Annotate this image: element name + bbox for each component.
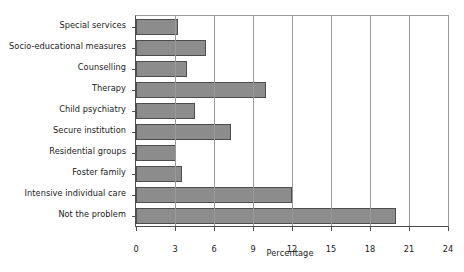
category-label: Foster family xyxy=(0,168,126,177)
gridline xyxy=(175,16,176,226)
gridline xyxy=(370,16,371,226)
x-axis-tick xyxy=(292,227,293,231)
category-label: Child psychiatry xyxy=(0,105,126,114)
gridline xyxy=(253,16,254,226)
gridline xyxy=(409,16,410,226)
bar xyxy=(136,40,206,56)
category-label: Socio-educational measures xyxy=(0,42,126,51)
category-label: Therapy xyxy=(0,84,126,93)
plot-area: 03691215182124 xyxy=(135,15,449,227)
gridline xyxy=(292,16,293,226)
y-axis-tick xyxy=(132,27,136,28)
bar xyxy=(136,103,195,119)
x-axis-tick xyxy=(331,227,332,231)
category-label: Residential groups xyxy=(0,147,126,156)
category-label: Special services xyxy=(0,21,126,30)
gridline xyxy=(214,16,215,226)
x-axis-tick xyxy=(448,227,449,231)
bar xyxy=(136,19,178,35)
y-axis-tick xyxy=(132,111,136,112)
category-label: Secure institution xyxy=(0,126,126,135)
gridline xyxy=(331,16,332,226)
x-axis-tick xyxy=(253,227,254,231)
y-axis-tick xyxy=(132,153,136,154)
y-axis-tick xyxy=(132,69,136,70)
x-axis-tick xyxy=(409,227,410,231)
bar-chart: Special servicesSocio-educational measur… xyxy=(0,0,464,272)
x-axis-tick xyxy=(175,227,176,231)
y-axis-tick xyxy=(132,48,136,49)
y-axis-tick xyxy=(132,174,136,175)
category-label: Intensive individual care xyxy=(0,189,126,198)
y-axis-tick xyxy=(132,195,136,196)
y-axis-tick xyxy=(132,90,136,91)
bar xyxy=(136,82,266,98)
category-label: Counselling xyxy=(0,63,126,72)
bar xyxy=(136,145,176,161)
x-axis-title: Percentage xyxy=(0,248,464,258)
x-axis-title-text: Percentage xyxy=(266,248,313,258)
y-axis-tick xyxy=(132,216,136,217)
x-axis-tick xyxy=(370,227,371,231)
x-axis-tick xyxy=(214,227,215,231)
x-axis-tick xyxy=(136,227,137,231)
category-label: Not the problem xyxy=(0,210,126,219)
bar xyxy=(136,124,231,140)
y-axis-tick xyxy=(132,132,136,133)
bar xyxy=(136,61,187,77)
category-axis-labels: Special servicesSocio-educational measur… xyxy=(0,15,131,225)
